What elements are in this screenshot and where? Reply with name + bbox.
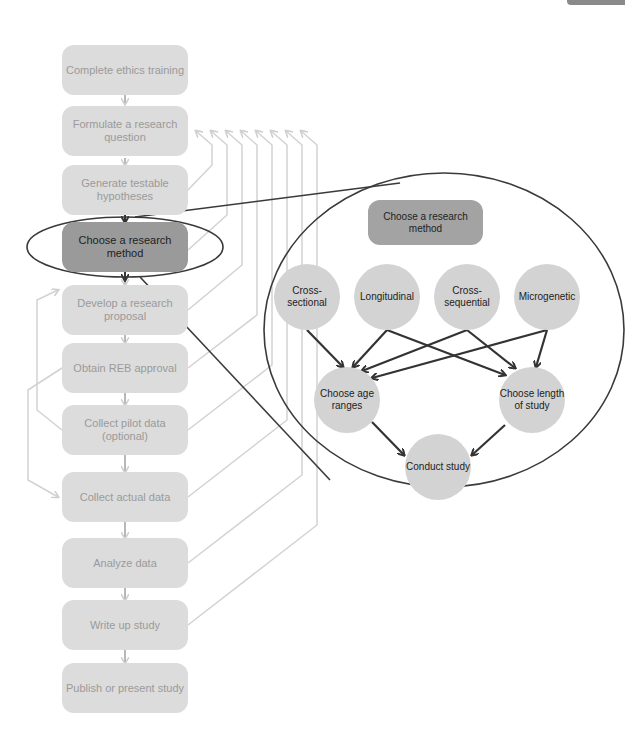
- step-analyze-data: Analyze data: [62, 538, 188, 588]
- step-develop-proposal: Develop a research proposal: [62, 285, 188, 335]
- method-cross-sequential: Cross-sequential: [434, 264, 500, 330]
- method-microgenetic: Microgenetic: [514, 264, 580, 330]
- decision-choose-age-ranges: Choose age ranges: [314, 367, 380, 433]
- step-formulate-question: Formulate a research question: [62, 106, 188, 156]
- step-choose-research-method: Choose a research method: [62, 222, 188, 272]
- method-longitudinal: Longitudinal: [354, 264, 420, 330]
- step-collect-pilot-data: Collect pilot data (optional): [62, 405, 188, 455]
- step-obtain-reb-approval: Obtain REB approval: [62, 343, 188, 393]
- zoom-panel-title: Choose a research method: [368, 200, 483, 245]
- step-complete-ethics-training: Complete ethics training: [62, 45, 188, 95]
- outcome-conduct-study: Conduct study: [405, 434, 471, 500]
- step-generate-hypotheses: Generate testable hypotheses: [62, 165, 188, 215]
- step-collect-actual-data: Collect actual data: [62, 472, 188, 522]
- decision-choose-length-of-study: Choose length of study: [499, 367, 565, 433]
- method-cross-sectional: Cross-sectional: [274, 264, 340, 330]
- step-write-up-study: Write up study: [62, 600, 188, 650]
- step-publish-present: Publish or present study: [62, 663, 188, 713]
